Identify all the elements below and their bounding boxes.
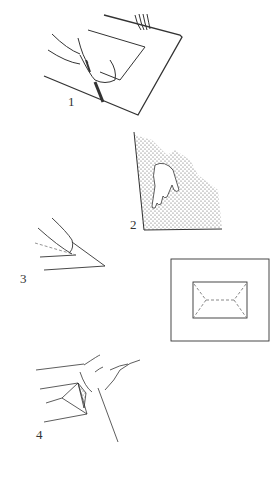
figure-2-drawing — [134, 132, 222, 230]
figure-1-drawing — [44, 14, 182, 115]
mount-board-drawing — [171, 259, 269, 341]
figure-1-label: 1 — [68, 94, 75, 109]
figure-2-label: 2 — [130, 217, 137, 232]
illustration-canvas: 1 2 3 4 — [0, 0, 272, 492]
figure-3-label: 3 — [20, 271, 27, 286]
figure-4-label: 4 — [36, 427, 43, 442]
figure-3-drawing — [35, 218, 105, 270]
figure-4-drawing — [36, 355, 140, 442]
